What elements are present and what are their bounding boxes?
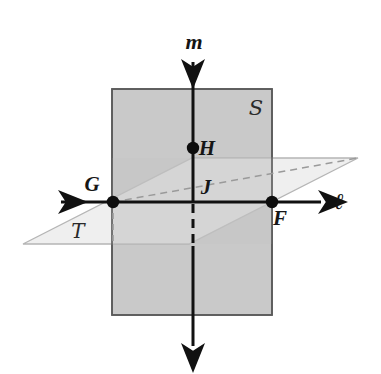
plane-s-label: S — [249, 96, 263, 120]
geometry-canvas: G F H J m ℓ S T — [0, 0, 381, 374]
point-h-dot[interactable] — [187, 142, 199, 154]
line-ell-label: ℓ — [334, 189, 344, 214]
plane-t-label: T — [71, 219, 86, 243]
point-g-label: G — [84, 172, 99, 196]
line-m-label: m — [185, 29, 202, 54]
point-g-dot[interactable] — [107, 196, 119, 208]
point-h-label: H — [198, 136, 216, 160]
point-f-label: F — [272, 206, 287, 230]
geometry-diagram: G F H J m ℓ S T — [0, 0, 381, 374]
point-j-label: J — [200, 175, 213, 199]
